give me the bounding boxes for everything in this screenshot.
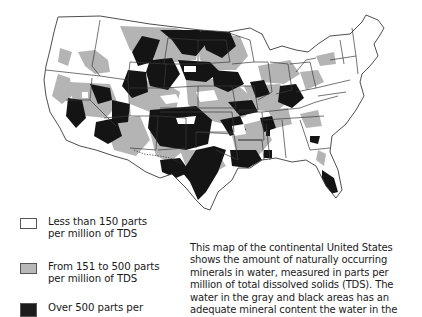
legend-label-medium: From 151 to 500 parts per million of TDS bbox=[48, 261, 159, 285]
map-description: This map of the continental United State… bbox=[190, 242, 422, 316]
map-regions bbox=[0, 0, 422, 230]
description-line: water in the gray and black areas has an bbox=[190, 292, 422, 304]
legend-item-low: Less than 150 parts per million of TDS bbox=[20, 216, 210, 246]
legend-item-medium: From 151 to 500 parts per million of TDS bbox=[20, 261, 210, 291]
description-line: million of total dissolved solids (TDS).… bbox=[190, 279, 422, 291]
description-line: shows the amount of naturally occurring bbox=[190, 254, 422, 266]
legend-swatch-medium bbox=[20, 263, 37, 274]
legend-swatch-low bbox=[20, 218, 37, 229]
legend-swatch-high bbox=[20, 303, 37, 317]
legend-label-low: Less than 150 parts per million of TDS bbox=[48, 216, 147, 240]
legend-item-high: Over 500 parts per bbox=[20, 302, 210, 317]
legend-label-high: Over 500 parts per bbox=[48, 302, 143, 314]
description-line: minerals in water, measured in parts per bbox=[190, 267, 422, 279]
description-line: adequate mineral content the water in th… bbox=[190, 304, 422, 316]
description-line: This map of the continental United State… bbox=[190, 242, 422, 254]
us-tds-map bbox=[0, 0, 422, 230]
